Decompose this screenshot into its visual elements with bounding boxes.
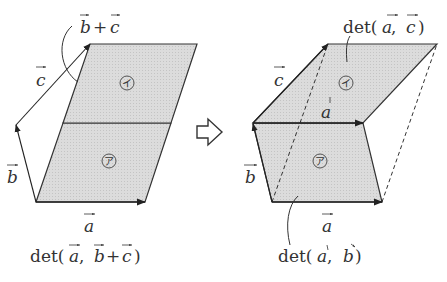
left-label-a: a bbox=[84, 214, 95, 236]
right-caption-top: det( a , c ) bbox=[343, 15, 425, 37]
left-region-lower-label: ア bbox=[104, 156, 114, 167]
svg-text:,: , bbox=[391, 17, 396, 37]
left-label-c: c bbox=[36, 67, 46, 90]
right-label-a-bottom: a bbox=[322, 214, 333, 236]
left-label-b: b bbox=[7, 165, 18, 187]
left-region-upper-label: イ bbox=[122, 78, 132, 89]
svg-text:): ) bbox=[418, 17, 425, 37]
svg-text:det(: det( bbox=[343, 17, 377, 37]
svg-text:c: c bbox=[110, 17, 120, 37]
transition-arrow-icon bbox=[197, 119, 222, 145]
svg-text:c: c bbox=[406, 17, 416, 37]
left-caption: det( a , b + c ) bbox=[30, 245, 141, 266]
svg-text:,: , bbox=[327, 246, 332, 266]
right-leader-bottom bbox=[288, 196, 298, 245]
left-figure: イ ア b + c c b a det( bbox=[7, 15, 197, 266]
svg-text:): ) bbox=[134, 246, 141, 266]
svg-text:b: b bbox=[94, 246, 105, 266]
svg-text:a: a bbox=[69, 246, 79, 266]
svg-text:b: b bbox=[7, 167, 18, 187]
svg-text:+: + bbox=[106, 246, 120, 266]
svg-text:c: c bbox=[274, 70, 284, 90]
svg-text:+: + bbox=[93, 17, 107, 37]
svg-text:b: b bbox=[245, 167, 256, 187]
svg-text:a: a bbox=[84, 216, 94, 236]
svg-text:a: a bbox=[317, 246, 327, 266]
right-region-upper-label: イ bbox=[341, 78, 351, 89]
svg-text:b: b bbox=[343, 246, 354, 266]
right-region-lower-label: ア bbox=[315, 156, 325, 167]
right-label-c: c bbox=[274, 67, 285, 90]
right-figure: イ ア det( a , c ) c a b bbox=[244, 15, 437, 266]
svg-text:a: a bbox=[322, 216, 332, 236]
right-label-b: b bbox=[244, 165, 257, 187]
svg-text:c: c bbox=[122, 246, 132, 266]
left-leader-curve bbox=[62, 26, 78, 82]
svg-text:c: c bbox=[36, 70, 46, 90]
left-label-b-plus-c: b + c bbox=[80, 15, 120, 37]
svg-text:): ) bbox=[355, 246, 362, 266]
right-caption-bottom: det( a , b ) bbox=[278, 244, 362, 266]
svg-text:det(: det( bbox=[30, 246, 64, 266]
svg-text:a: a bbox=[321, 102, 331, 122]
svg-text:,: , bbox=[79, 246, 84, 266]
svg-text:b: b bbox=[80, 17, 91, 37]
left-vector-b bbox=[16, 125, 36, 202]
diagram-canvas: イ ア b + c c b a det( bbox=[0, 0, 447, 282]
svg-text:det(: det( bbox=[278, 246, 312, 266]
